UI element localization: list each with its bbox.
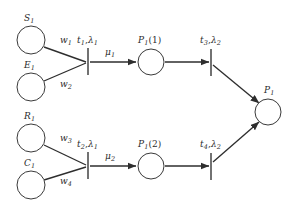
place-label-S1: S1: [24, 14, 35, 23]
transition-label-t1: t1,λ1: [77, 36, 98, 45]
place-label-P1: P1: [264, 86, 274, 95]
place-label-C1: C1: [24, 159, 35, 168]
place-P1[interactable]: [255, 99, 281, 125]
place-R1[interactable]: [17, 124, 45, 152]
place-E1[interactable]: [17, 73, 45, 101]
arc-label-w3: w3: [60, 134, 72, 143]
place-S1[interactable]: [17, 26, 45, 54]
arc-S1-t1: [44, 47, 86, 62]
place-label-E1: E1: [24, 61, 35, 70]
arc-label-w2: w2: [60, 80, 72, 89]
transition-label-t3: t3,λ2: [200, 36, 221, 45]
arc-label-mu1: μ1: [105, 48, 115, 57]
transition-label-t4: t4,λ2: [200, 140, 221, 149]
place-P1_2[interactable]: [138, 153, 164, 179]
place-label-P1_1: P1(1): [138, 36, 161, 45]
arc-label-mu2: μ2: [105, 152, 115, 161]
petri-net-diagram: S1E1R1C1P1(1)P1(2)P1t1,λ1t2,λ1t3,λ2t4,λ2…: [0, 0, 299, 213]
transition-label-t2: t2,λ1: [77, 140, 98, 149]
place-C1[interactable]: [17, 171, 45, 199]
petri-net-canvas: [0, 0, 299, 213]
arc-label-w1: w1: [60, 36, 72, 45]
arc-label-w4: w4: [60, 177, 72, 186]
arc-t3-P1: [213, 65, 259, 103]
place-P1_1[interactable]: [138, 49, 164, 75]
place-label-P1_2: P1(2): [138, 140, 161, 149]
place-label-R1: R1: [24, 112, 35, 121]
